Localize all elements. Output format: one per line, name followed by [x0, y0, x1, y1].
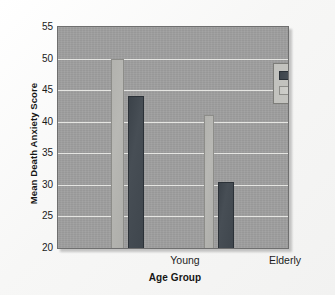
y-tick-label: 45	[27, 84, 53, 95]
gridline	[58, 59, 288, 60]
bar-elderly-women	[204, 115, 214, 248]
gridline	[58, 216, 288, 217]
y-tick-label: 55	[27, 21, 53, 32]
y-tick-label: 40	[27, 116, 53, 127]
y-tick-label: 20	[27, 242, 53, 253]
y-tick-label: 30	[27, 179, 53, 190]
y-tick-label: 50	[27, 53, 53, 64]
gridline	[58, 185, 288, 186]
legend-item-women: Women	[279, 83, 289, 98]
bar-young-men	[128, 96, 144, 248]
figure-container: Mean Death Anxiety Score Men Women 20253…	[0, 0, 335, 295]
legend-swatch-men-icon	[279, 71, 289, 80]
gridline	[58, 122, 288, 123]
gridline	[58, 153, 288, 154]
x-category-label: Elderly	[269, 254, 301, 266]
bar-young-women	[111, 59, 124, 248]
legend-item-men: Men	[279, 68, 289, 83]
x-category-label: Young	[170, 254, 199, 266]
chart-legend: Men Women	[273, 63, 289, 104]
legend-swatch-women-icon	[279, 86, 289, 95]
plot-area: Men Women	[57, 26, 289, 249]
y-tick-label: 35	[27, 147, 53, 158]
gridline	[58, 90, 288, 91]
y-tick-label: 25	[27, 210, 53, 221]
plot-texture-overlay	[58, 27, 288, 248]
x-axis-title: Age Group	[60, 272, 290, 283]
bar-elderly-men	[218, 182, 234, 248]
